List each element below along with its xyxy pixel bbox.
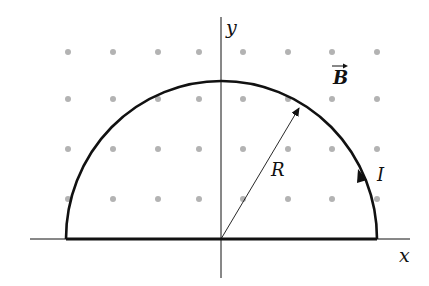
field-dot [110, 196, 116, 202]
field-label: B [332, 67, 348, 88]
diagram-canvas: y x B R I [0, 0, 429, 286]
field-dot [196, 49, 202, 55]
field-dot [285, 196, 291, 202]
radius-vector [221, 108, 299, 239]
field-dot [329, 146, 335, 152]
field-dot [196, 96, 202, 102]
field-dot [285, 146, 291, 152]
field-dot [240, 146, 246, 152]
field-dot [374, 146, 380, 152]
field-dot [285, 49, 291, 55]
field-dot [110, 146, 116, 152]
current-label: I [376, 164, 385, 185]
x-axis-label: x [399, 244, 410, 266]
field-dot [329, 96, 335, 102]
field-dot [196, 196, 202, 202]
field-dot [155, 146, 161, 152]
field-dot [240, 49, 246, 55]
field-dot [65, 49, 71, 55]
field-dot [196, 146, 202, 152]
radius-label: R [270, 159, 285, 180]
y-axis-label: y [225, 16, 237, 38]
field-dot [110, 96, 116, 102]
field-dot [65, 146, 71, 152]
field-dot [374, 196, 380, 202]
field-dot [329, 49, 335, 55]
field-dot [110, 49, 116, 55]
field-dot [240, 96, 246, 102]
field-dot [155, 196, 161, 202]
field-dot [65, 96, 71, 102]
field-dot [374, 49, 380, 55]
field-dot [329, 196, 335, 202]
field-dot [155, 49, 161, 55]
field-dot [374, 96, 380, 102]
